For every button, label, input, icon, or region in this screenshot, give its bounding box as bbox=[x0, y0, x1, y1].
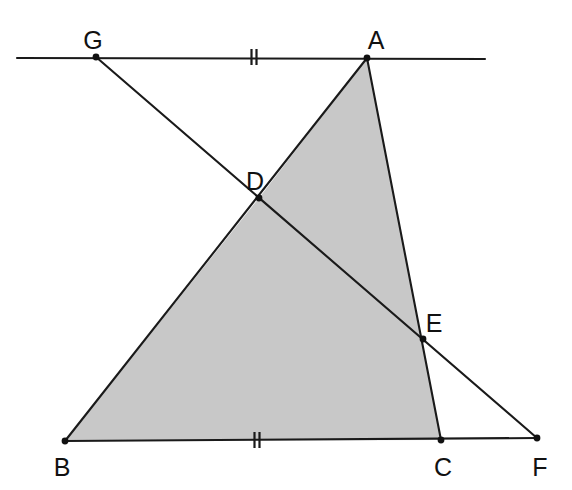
vertex-label-G: G bbox=[83, 26, 102, 54]
geometry-canvas: G A D E B C F bbox=[0, 0, 572, 490]
vertex-point-G bbox=[93, 54, 100, 61]
geometry-figure: G A D E B C F bbox=[0, 0, 572, 490]
vertex-label-B: B bbox=[54, 453, 71, 481]
vertex-label-A: A bbox=[368, 26, 385, 54]
vertex-label-D: D bbox=[246, 167, 264, 195]
shaded-region-quadrilateral bbox=[65, 58, 441, 441]
vertex-label-C: C bbox=[434, 453, 452, 481]
vertex-point-C bbox=[438, 437, 445, 444]
congruence-tick-on-segment-GA bbox=[252, 49, 257, 65]
vertex-point-A bbox=[364, 55, 371, 62]
vertex-label-F: F bbox=[532, 453, 547, 481]
vertex-point-D bbox=[256, 195, 263, 202]
vertex-point-B bbox=[62, 438, 69, 445]
vertex-label-E: E bbox=[426, 309, 443, 337]
vertex-point-F bbox=[534, 435, 541, 442]
